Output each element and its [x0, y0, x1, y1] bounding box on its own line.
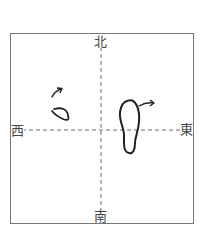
label-east: 東 [180, 123, 193, 136]
diagram-frame [11, 34, 194, 224]
loop-curve [52, 108, 68, 120]
label-north: 北 [94, 35, 107, 48]
footprint-outline [120, 100, 139, 153]
label-west: 西 [11, 124, 24, 137]
loop-arrow-shaft [52, 89, 61, 97]
label-south: 南 [94, 210, 107, 223]
footprint-figure [120, 100, 154, 153]
small-loop-figure [52, 88, 68, 120]
